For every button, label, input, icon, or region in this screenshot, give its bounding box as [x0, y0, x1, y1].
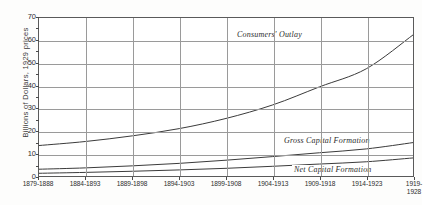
y-tick-mark — [36, 63, 39, 64]
y-tick-mark — [36, 86, 39, 87]
y-tick-mark — [36, 154, 39, 155]
x-tick-mark — [414, 177, 415, 180]
x-tick-label: 1879-1888 — [14, 180, 62, 188]
y-tick-mark — [36, 17, 39, 18]
x-tick-label: 1894-1903 — [155, 180, 203, 188]
y-tick-mark — [36, 143, 39, 144]
x-tick-label: 1919- 1928 — [390, 180, 427, 196]
y-tick-label: 50 — [18, 59, 36, 67]
x-tick-label: 1904-1913 — [249, 180, 297, 188]
gridline-vertical — [180, 18, 181, 176]
gridline-vertical — [274, 18, 275, 176]
y-tick-mark — [36, 51, 39, 52]
x-tick-label: 1884-1893 — [61, 180, 109, 188]
series-label-consumers-outlay: Consumers' Outlay — [235, 30, 304, 39]
gridline-vertical — [86, 18, 87, 176]
x-tick-label: 1914-1923 — [343, 180, 391, 188]
y-tick-mark — [36, 40, 39, 41]
series-label-net-capital-formation: Net Capital Formation — [292, 165, 374, 174]
x-tick-mark — [367, 177, 368, 180]
series-label-gross-capital-formation: Gross Capital Formation — [282, 136, 372, 145]
x-tick-label: 1909-1918 — [296, 180, 344, 188]
x-tick-mark — [179, 177, 180, 180]
gridline-horizontal — [39, 109, 413, 110]
gridline-vertical — [227, 18, 228, 176]
plot-area: Consumers' Outlay Gross Capital Formatio… — [38, 17, 414, 177]
y-tick-label: 10 — [18, 150, 36, 158]
y-tick-mark — [36, 166, 39, 167]
y-tick-label: 40 — [18, 82, 36, 90]
y-tick-mark — [36, 108, 39, 109]
y-tick-label: 20 — [18, 127, 36, 135]
gridline-horizontal — [39, 64, 413, 65]
y-axis-tick-labels: 010203040506070 — [14, 0, 36, 205]
x-tick-label: 1899-1908 — [202, 180, 250, 188]
y-tick-label: 70 — [18, 13, 36, 21]
gridline-horizontal — [39, 41, 413, 42]
y-tick-mark — [36, 28, 39, 29]
x-tick-mark — [273, 177, 274, 180]
gridline-vertical — [368, 18, 369, 176]
y-tick-mark — [36, 131, 39, 132]
x-tick-label: 1889-1898 — [108, 180, 156, 188]
x-tick-mark — [38, 177, 39, 180]
y-tick-mark — [36, 120, 39, 121]
gridline-vertical — [133, 18, 134, 176]
gridline-vertical — [321, 18, 322, 176]
x-axis-tick-labels: 1879-18881884-18931889-18981894-19031899… — [0, 180, 422, 205]
x-tick-mark — [320, 177, 321, 180]
x-tick-mark — [226, 177, 227, 180]
y-tick-mark — [36, 97, 39, 98]
gridline-horizontal — [39, 132, 413, 133]
x-tick-mark — [85, 177, 86, 180]
y-tick-label: 30 — [18, 104, 36, 112]
gridline-horizontal — [39, 87, 413, 88]
series-line-consumers-outlay — [39, 35, 413, 146]
y-tick-label: 60 — [18, 36, 36, 44]
y-tick-mark — [36, 74, 39, 75]
gridline-horizontal — [39, 155, 413, 156]
x-tick-mark — [132, 177, 133, 180]
